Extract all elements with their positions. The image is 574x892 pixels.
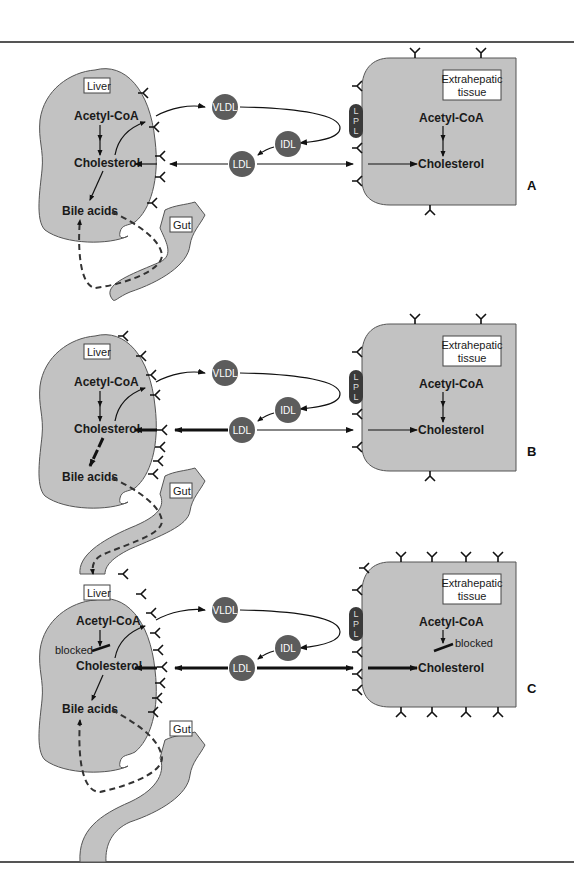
- liver-cholesterol: Cholesterol: [74, 422, 140, 436]
- liver-acetyl-coa: Acetyl-CoA: [76, 614, 141, 628]
- liver-label: Liver: [87, 587, 111, 599]
- liver-acetyl-coa: Acetyl-CoA: [74, 109, 139, 123]
- lpl-letter: L: [353, 126, 358, 136]
- lpl-letter: L: [353, 629, 358, 639]
- panel-letter-c: C: [527, 681, 537, 696]
- panel-a: Liver Acetyl-CoA Cholesterol Bile acids …: [39, 48, 537, 300]
- tissue-acetyl-coa: Acetyl-CoA: [419, 615, 484, 629]
- ldl-label: LDL: [233, 663, 252, 674]
- idl-label: IDL: [280, 405, 296, 416]
- tissue-blocked-label: blocked: [455, 637, 493, 649]
- tissue-label-1: Extrahepatic: [441, 577, 503, 589]
- liver-bile-acids: Bile acids: [62, 702, 118, 716]
- lpl-letter: L: [353, 392, 358, 402]
- lpl-letter: L: [353, 372, 358, 382]
- lpl-letter: L: [353, 609, 358, 619]
- idl-label: IDL: [280, 643, 296, 654]
- ldl-label: LDL: [233, 425, 252, 436]
- gut-label: Gut: [173, 723, 191, 735]
- lpl-letter: L: [353, 106, 358, 116]
- vldl-label: VLDL: [212, 368, 237, 379]
- tissue-cholesterol: Cholesterol: [418, 157, 484, 171]
- lpl-letter: P: [353, 619, 359, 629]
- liver-acetyl-coa: Acetyl-CoA: [74, 375, 139, 389]
- gut-label: Gut: [173, 485, 191, 497]
- tissue-label-1: Extrahepatic: [441, 339, 503, 351]
- lpl-letter: P: [353, 382, 359, 392]
- tissue-label-2: tissue: [458, 590, 487, 602]
- liver-cholesterol: Cholesterol: [74, 156, 140, 170]
- idl-label: IDL: [280, 139, 296, 150]
- tissue-cholesterol: Cholesterol: [418, 661, 484, 675]
- panel-letter-a: A: [527, 178, 537, 193]
- liver-bile-acids: Bile acids: [62, 470, 118, 484]
- liver-bile-acids: Bile acids: [62, 204, 118, 218]
- panel-b: Liver Acetyl-CoA Cholesterol Bile acids …: [39, 314, 536, 574]
- panel-letter-b: B: [527, 444, 536, 459]
- liver-cholesterol: Cholesterol: [76, 659, 142, 673]
- vldl-label: VLDL: [212, 605, 237, 616]
- panel-c: Liver Acetyl-CoA blocked Cholesterol Bil…: [39, 552, 537, 862]
- liver-label: Liver: [87, 346, 111, 358]
- tissue-label-2: tissue: [458, 86, 487, 98]
- tissue-acetyl-coa: Acetyl-CoA: [419, 377, 484, 391]
- tissue-cholesterol: Cholesterol: [418, 423, 484, 437]
- gut-label: Gut: [173, 219, 191, 231]
- tissue-label-2: tissue: [458, 352, 487, 364]
- tissue-label-1: Extrahepatic: [441, 73, 503, 85]
- liver-label: Liver: [87, 80, 111, 92]
- ldl-label: LDL: [233, 159, 252, 170]
- vldl-label: VLDL: [212, 102, 237, 113]
- tissue-acetyl-coa: Acetyl-CoA: [419, 111, 484, 125]
- liver-blocked-label: blocked: [55, 644, 93, 656]
- lpl-letter: P: [353, 116, 359, 126]
- cholesterol-metabolism-diagram: Liver Acetyl-CoA Cholesterol Bile acids …: [0, 0, 574, 892]
